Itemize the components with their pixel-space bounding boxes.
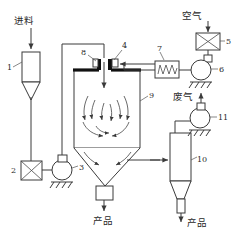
- equipment-label-5: 5: [226, 37, 231, 46]
- process-flow-diagram: 进料 1 2 3 8 4 9: [0, 0, 235, 232]
- chamber-product-label: 产品: [93, 215, 113, 226]
- pfd-canvas: 进料 1 2 3 8 4 9: [0, 0, 235, 232]
- exhaust-fan-body: [190, 108, 210, 128]
- leader-8: [88, 55, 96, 61]
- feed-pump-body: [52, 160, 72, 180]
- exhaust-gas-label: 废气: [173, 91, 193, 102]
- leader-1: [13, 62, 22, 67]
- air-inlet-label: 空气: [182, 10, 202, 21]
- atomizer-inlet-shoulder: [112, 59, 118, 67]
- leader-7: [160, 52, 164, 60]
- equipment-label-1: 1: [7, 63, 12, 72]
- feed-inlet-label: 进料: [14, 15, 34, 26]
- feed-hopper-body: [22, 52, 40, 82]
- equipment-label-8: 8: [81, 48, 86, 57]
- equipment-label-4: 4: [122, 41, 127, 50]
- leader-9: [140, 96, 148, 101]
- cyclone-product-label: 产品: [187, 217, 207, 228]
- equipment-label-3: 3: [79, 163, 84, 172]
- cyclone-cone: [170, 181, 191, 199]
- leader-3: [72, 166, 78, 168]
- cyclone-product-outlet: [177, 199, 185, 213]
- equipment-label-9: 9: [149, 91, 154, 100]
- feed-pump-outlet-port: [58, 155, 67, 162]
- air-blower-body: [191, 60, 211, 80]
- feed-pump-base: [50, 182, 73, 188]
- equipment-label-11: 11: [218, 113, 228, 122]
- equipment-label-2: 2: [11, 166, 16, 175]
- atomizer-inlet-block: [108, 59, 112, 70]
- equipment-label-7: 7: [157, 44, 162, 53]
- air-blower-base: [189, 82, 212, 88]
- equipment-label-10: 10: [197, 155, 207, 164]
- cyclone-to-fan-line: [175, 121, 191, 133]
- equipment-label-6: 6: [219, 65, 224, 74]
- exhaust-fan-outlet-port: [197, 103, 205, 110]
- cyclone-body: [170, 133, 191, 181]
- chamber-product-outlet: [96, 186, 113, 200]
